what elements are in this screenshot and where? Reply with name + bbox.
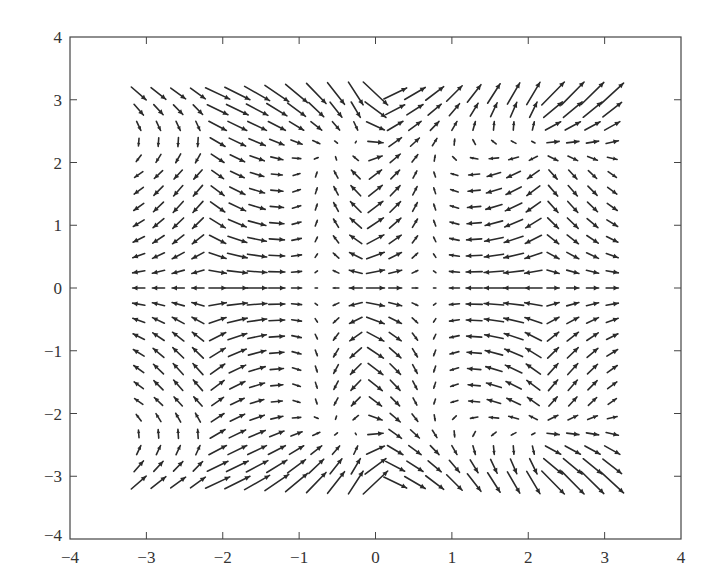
vector-arrow (412, 155, 418, 163)
vector-arrow (268, 121, 285, 130)
vector-arrow (389, 332, 401, 341)
vector-arrow (563, 102, 582, 118)
vector-arrow (467, 474, 481, 492)
vector-arrow (209, 253, 226, 260)
vector-arrow (307, 83, 326, 103)
vector-arrow (173, 364, 183, 375)
y-tick-label: 3 (54, 91, 63, 110)
vector-arrow (133, 349, 144, 356)
vector-arrow (367, 252, 385, 259)
vector-arrow (390, 202, 401, 213)
vector-arrow (354, 122, 358, 130)
vector-arrow (292, 237, 301, 241)
vector-arrow (210, 218, 225, 228)
vector-arrow (229, 365, 246, 373)
vector-arrow (154, 398, 162, 406)
vector-arrow (588, 171, 596, 179)
vector-arrow (390, 380, 400, 390)
vector-arrow (249, 139, 265, 146)
vector-arrow (486, 366, 502, 372)
vector-arrow (389, 429, 402, 438)
vector-arrow (606, 286, 618, 291)
vector-arrow (333, 333, 338, 340)
vector-arrow (389, 252, 402, 258)
vector-arrow (248, 237, 266, 242)
vector-arrow (328, 83, 345, 105)
vector-arrow (250, 382, 265, 388)
vector-arrow (512, 122, 515, 130)
y-tick-label: −3 (44, 467, 62, 486)
vector-arrow (547, 432, 559, 437)
vector-arrow (527, 170, 539, 178)
vector-arrow (369, 380, 383, 391)
x-tick-label: 2 (524, 548, 533, 567)
vector-arrow (588, 156, 598, 160)
x-tick-label: 4 (677, 548, 686, 567)
vector-arrow (133, 286, 145, 291)
vector-arrow (270, 205, 283, 210)
vector-arrow (134, 366, 144, 373)
vector-arrow (192, 301, 204, 306)
vector-arrow (504, 270, 524, 275)
vector-arrow (227, 461, 249, 472)
vector-arrow (473, 431, 476, 436)
vector-arrow (452, 121, 457, 130)
vector-arrow (391, 397, 400, 406)
vector-arrow (133, 318, 145, 323)
vector-arrow (450, 368, 458, 371)
vector-arrow (581, 82, 604, 104)
vector-arrow (193, 201, 203, 212)
vector-arrow (608, 399, 616, 405)
vector-arrow (211, 364, 225, 374)
vector-arrow (473, 446, 476, 455)
vector-arrow (606, 432, 618, 437)
y-tick-label: 1 (54, 216, 63, 235)
vector-arrow (348, 471, 363, 494)
vector-arrow (606, 270, 618, 275)
vector-arrow (413, 171, 417, 178)
vector-arrow (334, 171, 338, 178)
vector-arrow (504, 286, 524, 291)
vector-arrow (525, 270, 542, 275)
vector-arrow (152, 301, 164, 306)
vector-arrow (133, 220, 144, 227)
vector-arrow (510, 102, 517, 117)
x-tick-label: 1 (448, 548, 457, 567)
vector-arrow (269, 318, 285, 323)
vector-arrow (468, 188, 480, 193)
vector-arrow (569, 397, 577, 406)
vector-arrow (315, 172, 317, 177)
vector-arrow (292, 302, 302, 306)
vector-arrow (293, 173, 300, 176)
vector-arrow (450, 335, 459, 339)
vector-arrow (390, 364, 401, 375)
vector-arrow (207, 461, 228, 471)
vector-arrow (153, 219, 164, 228)
vector-arrow (333, 287, 339, 289)
vector-arrow (292, 205, 300, 208)
vector-arrow (470, 157, 477, 160)
vector-arrow (532, 122, 535, 130)
vector-arrow (569, 170, 577, 179)
vector-arrow (173, 201, 183, 212)
vector-arrow (526, 202, 540, 212)
vector-arrow (565, 122, 580, 130)
vector-arrow (386, 461, 405, 471)
vector-arrow (248, 254, 267, 259)
vector-arrow (350, 202, 361, 213)
vector-arrow (153, 333, 164, 341)
vector-arrow (586, 301, 598, 306)
vector-arrow (547, 252, 559, 258)
vector-arrow (248, 121, 267, 130)
vector-arrow (172, 252, 184, 258)
vector-arrow (585, 122, 600, 130)
vector-arrow (153, 364, 163, 374)
vector-arrow (368, 431, 383, 436)
y-tick-label: 2 (54, 154, 63, 173)
vector-arrow (387, 446, 403, 455)
vector-arrow (315, 366, 317, 372)
vector-arrow (433, 220, 435, 226)
vector-arrow (174, 185, 183, 196)
vector-arrow (586, 270, 598, 275)
vector-arrow (548, 363, 558, 374)
